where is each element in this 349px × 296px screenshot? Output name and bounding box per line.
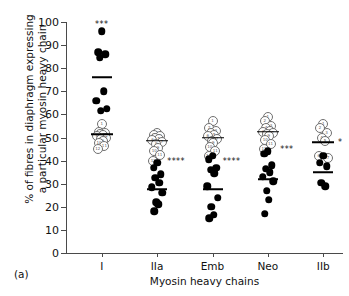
y-tick <box>61 138 66 139</box>
x-tick <box>157 253 158 257</box>
y-tick-label: 80 <box>45 62 59 75</box>
x-tick <box>268 253 269 257</box>
y-tick <box>61 91 66 92</box>
mean-line <box>92 77 112 79</box>
y-tick <box>61 68 66 69</box>
x-tick-label: IIb <box>317 260 330 272</box>
mean-line <box>146 140 168 142</box>
y-tick <box>61 184 66 185</box>
significance-marker: *** <box>280 145 293 154</box>
y-tick <box>61 22 66 23</box>
x-tick-label: Emb <box>201 260 225 272</box>
y-tick-label: 20 <box>45 200 59 213</box>
y-tick <box>61 114 66 115</box>
y-tick <box>61 207 66 208</box>
data-point-filled <box>100 88 108 96</box>
figure-panel: % of fibres in diaphragm expressing a pa… <box>0 0 349 296</box>
significance-marker: **** <box>167 156 185 165</box>
data-point-filled <box>96 54 104 62</box>
y-axis-line <box>66 22 67 253</box>
y-tick-label: 40 <box>45 154 59 167</box>
data-point-filled <box>214 194 222 202</box>
data-point-filled <box>261 210 269 218</box>
y-tick <box>61 230 66 231</box>
data-point-filled <box>323 163 331 171</box>
y-tick-label: 90 <box>45 39 59 52</box>
x-axis-title: Myosin heavy chains <box>60 275 349 287</box>
data-point-filled <box>263 187 271 195</box>
y-tick-label: 10 <box>45 223 59 236</box>
plot-area: 0102030405060708090100 IIIaEmbNeoIIb 123… <box>66 22 343 253</box>
data-point-filled <box>322 182 330 190</box>
x-tick-label: I <box>100 260 103 272</box>
mean-line <box>91 133 113 135</box>
data-point-filled <box>97 107 105 115</box>
mean-line <box>203 189 223 191</box>
y-tick <box>61 253 66 254</box>
y-tick-label: 60 <box>45 108 59 121</box>
data-point-open: 12 <box>93 144 103 154</box>
x-tick <box>213 253 214 257</box>
data-point-filled <box>211 170 219 178</box>
mean-line <box>147 189 167 191</box>
x-tick-label: Neo <box>258 260 279 272</box>
mean-line <box>312 141 334 143</box>
y-tick-label: 50 <box>45 131 59 144</box>
y-tick-label: 30 <box>45 177 59 190</box>
mean-line <box>257 131 279 133</box>
mean-line <box>258 178 278 180</box>
y-tick-label: 100 <box>38 16 59 29</box>
significance-marker: * <box>338 138 342 147</box>
data-point-filled <box>159 189 167 197</box>
y-tick-label: 0 <box>52 247 59 260</box>
data-point-filled <box>261 150 269 158</box>
y-tick-label: 70 <box>45 85 59 98</box>
data-point-filled <box>265 196 273 204</box>
mean-line <box>313 171 333 173</box>
x-axis-line <box>66 253 343 254</box>
data-point-filled <box>155 179 163 187</box>
y-tick <box>61 161 66 162</box>
y-axis-title-line1: % of fibres in diaphragm expressing <box>23 9 36 209</box>
data-point-filled <box>205 156 213 164</box>
data-point-filled <box>93 97 101 105</box>
x-tick-label: IIa <box>151 260 164 272</box>
data-point-filled <box>206 215 214 223</box>
y-tick <box>61 45 66 46</box>
x-tick <box>102 253 103 257</box>
significance-marker: *** <box>95 20 108 29</box>
data-point-filled <box>150 164 158 172</box>
data-point-filled <box>150 208 158 216</box>
significance-marker: **** <box>223 156 241 165</box>
x-tick <box>323 253 324 257</box>
data-point-filled <box>266 168 274 176</box>
mean-line <box>202 137 224 139</box>
panel-label: (a) <box>14 268 29 280</box>
data-point-filled <box>208 203 216 211</box>
